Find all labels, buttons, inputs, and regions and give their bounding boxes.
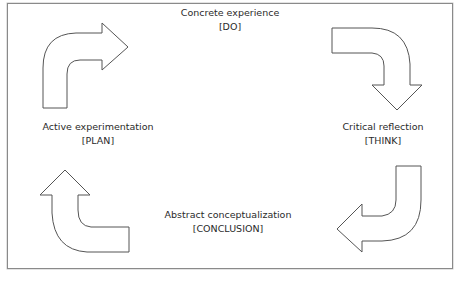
stage-do-title: Concrete experience (181, 6, 279, 20)
stage-conclusion-tag: [CONCLUSION] (165, 222, 292, 236)
curved-arrow-down-left-icon (337, 166, 421, 252)
stage-conclusion: Abstract conceptualization [CONCLUSION] (165, 208, 292, 236)
stage-plan: Active experimentation [PLAN] (43, 120, 154, 148)
stage-think-tag: [THINK] (342, 134, 423, 148)
stage-plan-title: Active experimentation (43, 120, 154, 134)
curved-arrow-left-up-icon (40, 170, 129, 252)
stage-conclusion-title: Abstract conceptualization (165, 208, 292, 222)
curved-arrow-up-right-icon (43, 23, 128, 108)
stage-do: Concrete experience [DO] (181, 6, 279, 34)
curved-arrow-right-down-icon (332, 28, 422, 110)
stage-think-title: Critical reflection (342, 120, 423, 134)
stage-do-tag: [DO] (181, 20, 279, 34)
stage-plan-tag: [PLAN] (43, 134, 154, 148)
stage-think: Critical reflection [THINK] (342, 120, 423, 148)
